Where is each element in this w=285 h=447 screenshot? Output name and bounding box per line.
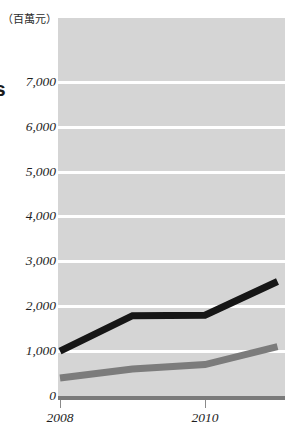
series-layer xyxy=(0,0,285,447)
line-chart: s （百萬元） 01,0002,0003,0004,0005,0006,0007… xyxy=(0,0,285,447)
data-line-series-gray xyxy=(60,347,278,378)
data-line-series-black xyxy=(60,282,278,352)
